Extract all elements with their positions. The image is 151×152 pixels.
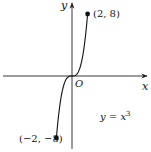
x-axis-label: x — [142, 81, 148, 92]
point-label-neg2-neg8: (−2, −8) — [19, 134, 63, 144]
origin-label: O — [75, 79, 83, 89]
y-axis-label: y — [61, 0, 67, 11]
point-label-2-8: (2, 8) — [93, 9, 120, 19]
equation-text: y = x — [100, 111, 126, 122]
endpoint-marker-2-8 — [85, 12, 90, 17]
equation-label: y = x3 — [100, 111, 131, 122]
equation-exponent: 3 — [126, 110, 130, 118]
cubic-function-plot — [0, 0, 151, 152]
